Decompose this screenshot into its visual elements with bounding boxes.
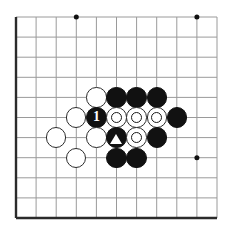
circle-mark-icon bbox=[111, 112, 122, 123]
star-point-top-left bbox=[74, 15, 79, 20]
black-stone-c7-r6[interactable] bbox=[147, 127, 167, 147]
black-stone-c6-r4[interactable] bbox=[126, 87, 146, 107]
black-stone-c6-r7[interactable] bbox=[126, 148, 146, 168]
white-stone-c2-r6[interactable] bbox=[46, 127, 66, 147]
black-stone-c8-r5[interactable] bbox=[167, 107, 187, 127]
black-stone-c5-r7[interactable] bbox=[106, 148, 126, 168]
white-stone-c4-r6[interactable] bbox=[86, 127, 106, 147]
triangle-mark-icon bbox=[110, 134, 122, 144]
star-point-top-right bbox=[194, 15, 199, 20]
move-number-label: 1 bbox=[93, 110, 100, 124]
star-point-bottom-right bbox=[194, 155, 199, 160]
white-stone-marked-circle-c6-r6[interactable] bbox=[126, 127, 146, 147]
white-stone-marked-circle-c5-r5[interactable] bbox=[106, 107, 126, 127]
white-stone-marked-circle-c7-r5[interactable] bbox=[147, 107, 167, 127]
circle-mark-icon bbox=[151, 112, 162, 123]
black-stone-move-1[interactable]: 1 bbox=[86, 107, 106, 127]
go-diagram: 1 bbox=[0, 0, 228, 239]
white-stone-c4-r4[interactable] bbox=[86, 87, 106, 107]
black-stone-c5-r4[interactable] bbox=[106, 87, 126, 107]
black-stone-marked-triangle-c5-r6[interactable] bbox=[106, 127, 126, 147]
black-stone-c7-r4[interactable] bbox=[147, 87, 167, 107]
white-stone-marked-circle-c6-r5[interactable] bbox=[126, 107, 146, 127]
circle-mark-icon bbox=[131, 112, 142, 123]
white-stone-c3-r5[interactable] bbox=[66, 107, 86, 127]
circle-mark-icon bbox=[131, 132, 142, 143]
